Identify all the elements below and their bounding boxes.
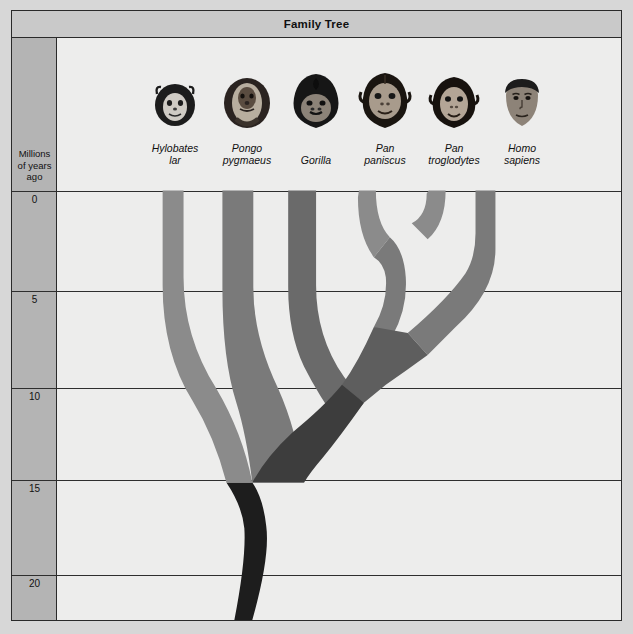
tree-canvas: Hylobates lar Pongo pygmaeus Gorilla Pan… <box>57 38 621 620</box>
phylogeny-branches <box>57 38 621 620</box>
branch-root-trunk <box>226 482 267 620</box>
branch-pan-troglodytes <box>412 190 446 239</box>
figure-title: Family Tree <box>284 18 349 30</box>
axis-tick-0: 0 <box>12 194 57 205</box>
time-axis-column: Millions of years ago 0 5 10 15 20 <box>12 38 57 620</box>
axis-caption-line-1: Millions <box>12 148 57 160</box>
figure-title-bar: Family Tree <box>12 11 621 38</box>
figure-frame: Family Tree Millions of years ago 0 5 10… <box>11 10 622 621</box>
family-tree-figure: Family Tree Millions of years ago 0 5 10… <box>0 0 633 634</box>
axis-tick-10: 10 <box>12 391 57 402</box>
axis-caption-line-2: of years <box>12 160 57 172</box>
axis-caption: Millions of years ago <box>12 148 57 183</box>
branch-homo-sapiens <box>408 190 496 354</box>
axis-tick-15: 15 <box>12 483 57 494</box>
axis-tick-5: 5 <box>12 294 57 305</box>
axis-caption-line-3: ago <box>12 171 57 183</box>
branch-pan-stem <box>374 237 406 337</box>
plot-area: Millions of years ago 0 5 10 15 20 <box>12 38 621 620</box>
axis-tick-20: 20 <box>12 578 57 589</box>
